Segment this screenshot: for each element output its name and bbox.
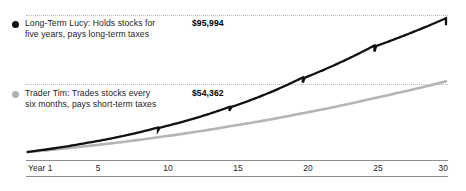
x-tick-label-10: 10	[163, 163, 172, 173]
legend-description-long-term-lucy: Long-Term Lucy: Holds stocks for five ye…	[25, 18, 175, 39]
x-tick-label-5: 5	[96, 163, 101, 173]
end-value-long-term-lucy: $95,994	[192, 18, 224, 28]
x-axis-rule-top	[26, 160, 448, 161]
legend-bullet-icon-trader-tim	[12, 91, 19, 98]
legend-line1-long-term-lucy: Long-Term Lucy: Holds stocks for	[25, 18, 155, 28]
legend-line2-long-term-lucy: five years, pays long-term taxes	[25, 29, 175, 40]
x-tick-label-20: 20	[303, 163, 312, 173]
legend-line2-trader-tim: six months, pays short-term taxes	[25, 99, 175, 110]
x-axis-rule-bottom	[26, 176, 448, 177]
legend-item-long-term-lucy: Long-Term Lucy: Holds stocks for five ye…	[12, 18, 244, 39]
legend-bullet-icon-long-term-lucy	[12, 21, 19, 28]
x-tick-label-15: 15	[233, 163, 242, 173]
end-value-trader-tim: $54,362	[192, 88, 224, 98]
chart-container: Long-Term Lucy: Holds stocks for five ye…	[0, 0, 466, 191]
x-tick-label-25: 25	[373, 163, 382, 173]
legend-line1-trader-tim: Trader Tim: Trades stocks every	[25, 88, 150, 98]
legend-item-trader-tim: Trader Tim: Trades stocks every six mont…	[12, 88, 244, 109]
x-tick-label-year-1: Year 1	[28, 163, 52, 173]
legend-description-trader-tim: Trader Tim: Trades stocks every six mont…	[25, 88, 175, 109]
x-tick-label-30: 30	[439, 163, 448, 173]
